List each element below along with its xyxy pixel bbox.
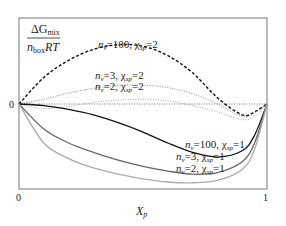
svg-text:ΔGmix: ΔGmix	[31, 22, 60, 37]
y-axis-label: ΔGmix nboxRT	[27, 22, 60, 55]
x-tick-zero: 0	[16, 192, 21, 203]
series-label: nv=100, χsp=2	[98, 38, 158, 52]
series-curves	[19, 44, 267, 182]
x-tick-one: 1	[263, 192, 268, 203]
svg-text:nboxRT: nboxRT	[27, 40, 60, 55]
series-curve	[19, 104, 267, 174]
series-labels: nv=100, χsp=2nv=3, χsp=2nv=2, χsp=2nv=10…	[95, 38, 245, 176]
y-tick-zero: 0	[9, 99, 14, 110]
series-curve	[19, 99, 267, 120]
series-label: nv=2, χsp=1	[176, 162, 225, 176]
x-axis-label: Xp	[135, 204, 147, 219]
chart-canvas: ΔGmix nboxRT 0 0 1 Xp nv=100, χsp=2nv=3,…	[0, 0, 286, 226]
